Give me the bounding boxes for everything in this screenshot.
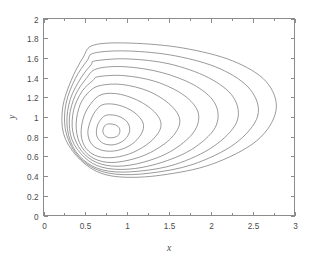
y-axis-tick-labels: 00.20.40.60.811.21.41.61.82 [27, 16, 39, 222]
y-tick-label-1: 0.2 [27, 193, 39, 202]
x-axis-title: x [166, 243, 172, 253]
x-tick-label-5: 2.5 [248, 222, 260, 231]
y-tick-label-7: 1.4 [27, 75, 39, 84]
x-tick-label-2: 1 [125, 222, 130, 231]
x-tick-label-6: 3 [293, 222, 298, 231]
x-tick-label-3: 1.5 [164, 222, 176, 231]
y-tick-label-3: 0.6 [27, 153, 39, 162]
x-tick-label-4: 2 [209, 222, 214, 231]
y-tick-label-8: 1.6 [27, 55, 39, 64]
y-tick-label-5: 1 [34, 114, 39, 123]
x-tick-label-0: 0 [42, 222, 47, 231]
y-axis-title: y [7, 114, 17, 120]
x-axis-tick-labels: 00.511.522.53 [42, 222, 298, 231]
y-tick-label-2: 0.4 [27, 173, 39, 182]
y-tick-label-9: 1.8 [27, 35, 39, 44]
y-tick-label-4: 0.8 [27, 134, 39, 143]
y-tick-label-10: 2 [34, 16, 39, 25]
y-tick-label-6: 1.2 [27, 94, 39, 103]
x-tick-label-1: 0.5 [80, 222, 92, 231]
figure-container: 00.511.522.53 00.20.40.60.811.21.41.61.8… [0, 0, 320, 266]
contour-plot-svg: 00.511.522.53 00.20.40.60.811.21.41.61.8… [0, 0, 320, 266]
y-tick-label-0: 0 [34, 213, 39, 222]
